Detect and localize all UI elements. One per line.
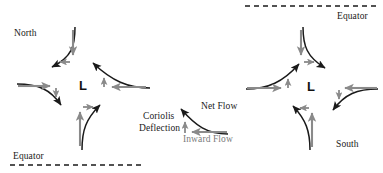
right-panel-southern-hemisphere [245, 6, 378, 150]
legend-label-deflection: Deflection [139, 123, 180, 133]
low-pressure-center-label-south: L [307, 82, 315, 92]
coriolis-diagram-svg [0, 0, 383, 173]
legend-net-flow-curve [181, 109, 228, 134]
legend-label-inward-flow: Inward Flow [183, 134, 233, 144]
label-north: North [14, 28, 37, 38]
legend-label-coriolis: Coriolis [143, 111, 174, 121]
low-pressure-center-label-north: L [79, 81, 87, 91]
left-panel-northern-hemisphere [10, 27, 150, 165]
net-flow-curve-east-left [93, 63, 150, 88]
net-flow-curve-south-right [293, 106, 310, 150]
diagram-canvas: North Equator L Equator South L Coriolis… [0, 0, 383, 173]
net-flow-curve-north-left [52, 27, 75, 67]
legend-label-net-flow: Net Flow [201, 101, 237, 111]
label-south: South [336, 139, 359, 149]
net-flow-curve-west-left [17, 84, 61, 105]
label-equator-right: Equator [337, 11, 368, 21]
legend-group [181, 109, 228, 134]
net-flow-curve-south-left [82, 105, 100, 150]
net-flow-curve-west-right [246, 64, 299, 89]
label-equator-left: Equator [13, 151, 44, 161]
